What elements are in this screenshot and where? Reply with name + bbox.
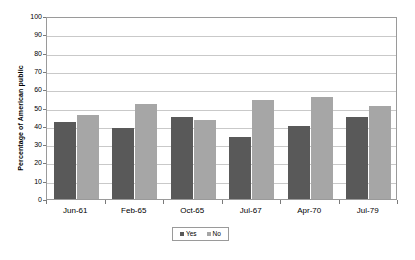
- legend-label-no: No: [213, 230, 221, 238]
- y-tick-label: 70: [26, 68, 42, 76]
- x-tick-mark: [339, 200, 340, 204]
- bar-group: [281, 18, 340, 199]
- legend-swatch-yes-icon: [180, 232, 184, 236]
- y-tick-mark: [43, 200, 46, 201]
- legend-entry-yes: Yes: [180, 230, 197, 238]
- y-tick-label: 30: [26, 141, 42, 149]
- x-tick-mark: [46, 200, 47, 204]
- x-tick-label-apr-70: Apr-70: [280, 206, 338, 216]
- bar-yes-jul-67: [229, 137, 251, 199]
- bar-no-jul-79: [369, 106, 391, 199]
- bar-group: [223, 18, 282, 199]
- y-tick-label: 40: [26, 123, 42, 131]
- x-tick-label-oct-65: Oct-65: [163, 206, 221, 216]
- x-tick-mark: [222, 200, 223, 204]
- x-tick-mark: [163, 200, 164, 204]
- x-tick-mark: [280, 200, 281, 204]
- bar-no-jul-67: [252, 100, 274, 199]
- y-tick-label: 100: [26, 13, 42, 21]
- chart-legend: YesNo: [172, 227, 229, 241]
- bar-no-oct-65: [194, 120, 216, 199]
- bar-no-feb-65: [135, 104, 157, 199]
- bar-group: [340, 18, 399, 199]
- bar-yes-feb-65: [112, 128, 134, 199]
- x-tick-mark: [397, 200, 398, 204]
- y-tick-label: 80: [26, 50, 42, 58]
- bar-group: [47, 18, 106, 199]
- bar-chart: Percentage of American public 0102030405…: [0, 0, 415, 260]
- x-tick-label-jul-79: Jul-79: [339, 206, 397, 216]
- legend-swatch-no-icon: [207, 232, 211, 236]
- y-tick-label: 50: [26, 105, 42, 113]
- bar-group: [164, 18, 223, 199]
- x-tick-mark: [105, 200, 106, 204]
- bar-yes-jun-61: [54, 122, 76, 199]
- x-tick-label-feb-65: Feb-65: [105, 206, 163, 216]
- y-axis-title: Percentage of American public: [14, 25, 28, 211]
- bar-yes-oct-65: [171, 117, 193, 199]
- bar-group: [106, 18, 165, 199]
- y-tick-label: 60: [26, 86, 42, 94]
- bar-yes-apr-70: [288, 126, 310, 199]
- bar-no-apr-70: [311, 97, 333, 199]
- bar-yes-jul-79: [346, 117, 368, 199]
- y-tick-label: 90: [26, 31, 42, 39]
- plot-area: [46, 17, 397, 200]
- legend-label-yes: Yes: [186, 230, 197, 238]
- y-tick-label: 0: [26, 196, 42, 204]
- legend-entry-no: No: [207, 230, 221, 238]
- bar-no-jun-61: [77, 115, 99, 199]
- y-tick-label: 20: [26, 159, 42, 167]
- x-tick-label-jul-67: Jul-67: [222, 206, 280, 216]
- x-tick-label-jun-61: Jun-61: [46, 206, 104, 216]
- y-tick-label: 10: [26, 178, 42, 186]
